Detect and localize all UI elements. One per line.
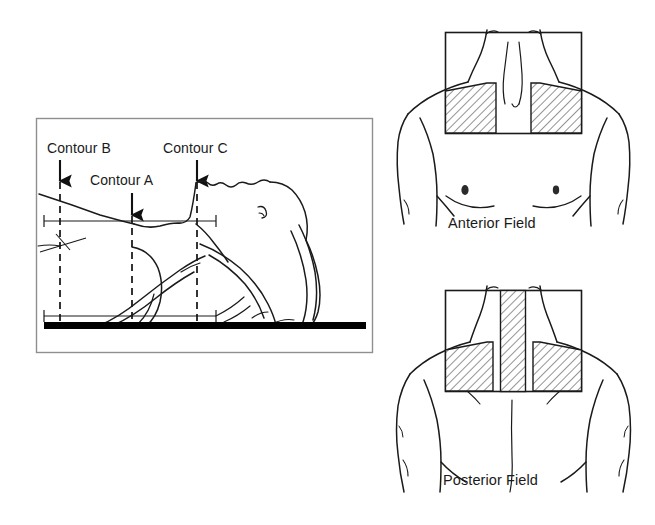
label-contour-b: Contour B — [47, 140, 111, 156]
label-posterior-field: Posterior Field — [443, 472, 538, 488]
posterior-block-right — [533, 342, 582, 391]
anterior-block-right — [531, 83, 582, 133]
posterior-spinal-cord-block — [501, 291, 526, 392]
label-contour-a: Contour A — [90, 172, 153, 188]
figure-artwork — [0, 0, 655, 525]
label-anterior-field: Anterior Field — [448, 215, 536, 231]
label-contour-c: Contour C — [163, 140, 228, 156]
nipple-right — [553, 186, 559, 195]
figure-root: Contour B Contour A Contour C Anterior F… — [0, 0, 655, 525]
anterior-field-diagram — [397, 30, 630, 226]
anterior-block-left — [446, 83, 497, 133]
nipple-left — [461, 185, 468, 195]
posterior-field-diagram — [397, 286, 631, 492]
treatment-table — [44, 322, 366, 329]
anterior-torso-outline — [397, 30, 630, 226]
posterior-block-left — [446, 342, 494, 391]
